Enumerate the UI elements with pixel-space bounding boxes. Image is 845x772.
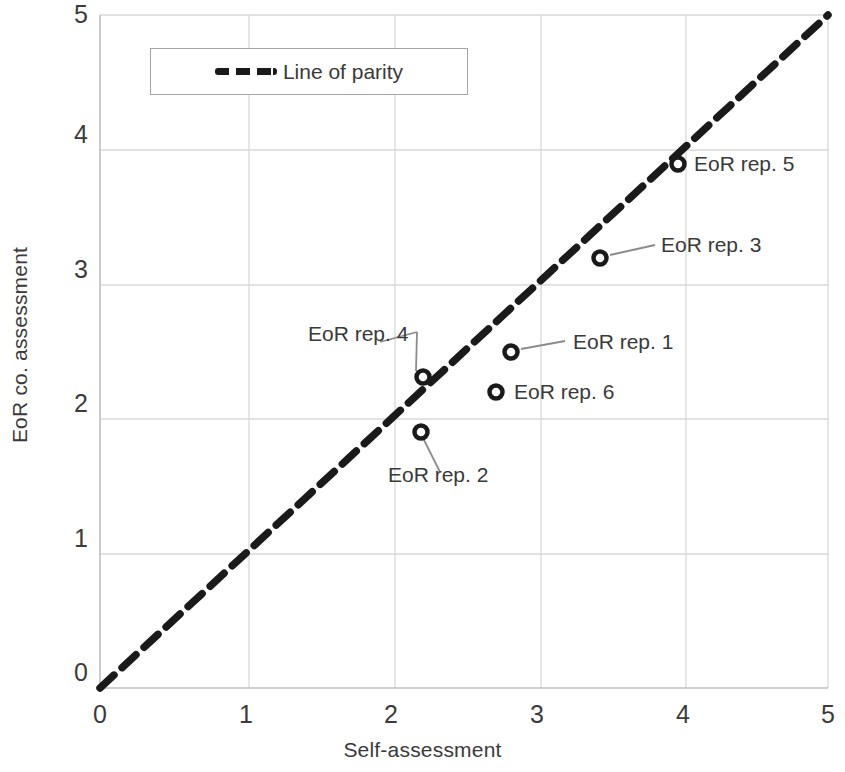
- leader-line-rep-3: [610, 245, 655, 255]
- x-axis-title: Self-assessment: [0, 738, 845, 762]
- line-of-parity: [100, 15, 828, 688]
- legend-entry-label: Line of parity: [283, 60, 403, 84]
- scatter-chart: EoR co. assessment 5 4 3 2 1 0 0 1 2 3 4…: [0, 0, 845, 772]
- data-point-rep-1[interactable]: [505, 346, 518, 359]
- point-label-rep-1: EoR rep. 1: [573, 330, 673, 354]
- data-point-rep-6[interactable]: [490, 386, 503, 399]
- point-label-rep-4: EoR rep. 4: [308, 322, 408, 346]
- point-label-rep-3: EoR rep. 3: [661, 233, 761, 257]
- data-point-rep-2[interactable]: [415, 426, 428, 439]
- dashed-line-icon: [215, 68, 277, 75]
- data-point-rep-5[interactable]: [672, 158, 685, 171]
- legend: Line of parity: [150, 48, 468, 95]
- point-label-rep-2: EoR rep. 2: [388, 463, 488, 487]
- data-point-rep-4[interactable]: [417, 371, 430, 384]
- leader-line-rep-1: [521, 341, 565, 349]
- plot-area: [0, 0, 845, 772]
- data-point-rep-3[interactable]: [594, 252, 607, 265]
- point-label-rep-6: EoR rep. 6: [514, 380, 614, 404]
- leader-line-rep-4: [416, 332, 417, 371]
- point-label-rep-5: EoR rep. 5: [694, 152, 794, 176]
